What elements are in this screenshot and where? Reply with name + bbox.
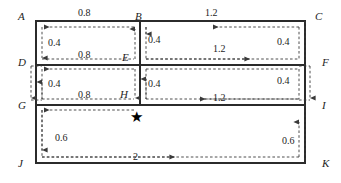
load-value-panel3-left: 0.4 (48, 79, 61, 89)
node-label-A: A (18, 11, 25, 22)
outer-boundary (36, 21, 305, 163)
node-label-D: D (18, 57, 26, 68)
load-value-panel2-left: 0.4 (148, 35, 161, 45)
load-value-panel4-right: 0.4 (277, 76, 290, 86)
load-value-panel2-right: 0.4 (277, 37, 290, 47)
load-value-panel4-left: 0.4 (148, 79, 161, 89)
load-value-panel2-mid: 1.2 (213, 44, 226, 54)
load-value-panel5-left: 0.6 (55, 133, 68, 143)
load-value-panel1-bottom: 0.8 (78, 50, 91, 60)
star-marker: ★ (130, 110, 143, 125)
load-value-panel5-right: 0.6 (282, 136, 295, 146)
node-label-F: F (322, 57, 329, 68)
node-label-H: H (120, 89, 128, 100)
node-label-C: C (315, 11, 322, 22)
load-value-panel4-mid: 1.2 (213, 93, 226, 103)
load-path-arrows (31, 21, 310, 163)
diagram-svg (0, 0, 341, 183)
node-label-E: E (122, 52, 129, 63)
node-label-J: J (18, 158, 23, 169)
diagram-canvas: A B C D E F G H I J K 0.8 1.2 0.4 0.8 0.… (0, 0, 341, 183)
node-label-B: B (135, 11, 142, 22)
node-label-I: I (322, 100, 326, 111)
load-value-top-BC: 1.2 (205, 8, 218, 18)
load-value-top-AB: 0.8 (78, 8, 91, 18)
load-value-panel3-bottom: 0.8 (78, 90, 91, 100)
load-value-panel1-left: 0.4 (48, 38, 61, 48)
node-label-K: K (322, 158, 329, 169)
structural-grid (36, 21, 305, 163)
load-value-panel5-bottom: 2 (133, 152, 138, 162)
node-label-G: G (18, 100, 26, 111)
